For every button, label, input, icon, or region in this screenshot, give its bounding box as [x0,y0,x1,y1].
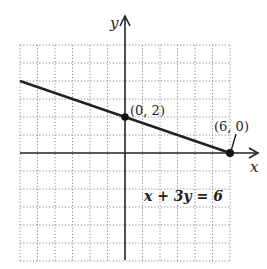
equation-label: x + 3y = 6 [143,188,223,204]
y-axis-label: y [109,14,119,32]
coordinate-graph: x y (0, 2) (6, 0) x + 3y = 6 [0,0,267,269]
point-6-0-leader [231,134,236,151]
point-label-0-2: (0, 2) [130,103,165,118]
point-0-2 [121,113,129,121]
x-axis-label: x [250,158,259,176]
point-6-0 [226,149,234,157]
point-label-6-0: (6, 0) [214,119,249,134]
